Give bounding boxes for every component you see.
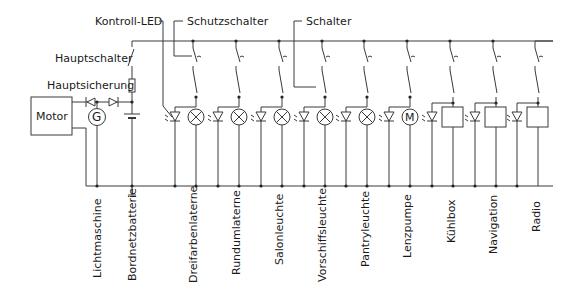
circuit-radio	[507, 41, 548, 188]
breaker-icon	[535, 48, 539, 62]
label-schalter: Schalter	[306, 15, 352, 28]
diode-right-icon	[109, 97, 118, 107]
leader-schalter	[294, 21, 316, 87]
breaker-icon	[322, 48, 326, 62]
circuit-vorschiffsleuchte	[294, 39, 333, 187]
switch-icon	[450, 70, 454, 93]
label-kontroll-led: Kontroll-LED	[95, 15, 162, 28]
circuit-dreifarbenlaterne	[165, 39, 204, 187]
kuehlbox-device-icon	[442, 107, 463, 127]
switch-icon	[279, 70, 283, 93]
control-led-icon	[422, 112, 437, 121]
breaker-icon	[450, 48, 454, 62]
circuit-lenzpumpe: M	[379, 39, 418, 187]
switch-icon	[364, 70, 368, 93]
label-salonleuchte: Salonleuchte	[273, 193, 286, 265]
battery-icon	[124, 114, 140, 118]
wiring-diagram: Motor G	[0, 0, 572, 300]
label-lenzpumpe: Lenzpumpe	[401, 194, 414, 258]
circuit-pantryleuchte	[336, 39, 375, 187]
breaker-icon	[279, 48, 283, 62]
label-bordnetzbatterie: Bordnetzbatterie	[126, 188, 139, 281]
breaker-icon	[407, 48, 411, 62]
control-led-icon	[336, 112, 351, 121]
label-hauptschalter: Hauptschalter	[55, 52, 133, 65]
navigation-device-icon	[485, 107, 506, 127]
circuit-rundumlaterne	[208, 39, 247, 187]
diode-left-icon	[86, 97, 95, 107]
label-schutzschalter: Schutzschalter	[187, 15, 269, 28]
label-dreifarbenlaterne: Dreifarbenlaterne	[187, 185, 200, 283]
circuit-navigation	[465, 39, 506, 187]
control-led-icon	[251, 112, 266, 121]
switch-icon	[407, 70, 411, 93]
radio-device-icon	[527, 107, 548, 127]
circuit-salonleuchte	[251, 39, 290, 187]
switch-icon	[493, 70, 497, 93]
control-led-icon	[208, 112, 223, 121]
breaker-icon	[493, 48, 497, 62]
breaker-icon	[236, 48, 240, 62]
switch-icon	[535, 70, 539, 93]
motor-label: Motor	[36, 110, 68, 123]
switch-icon	[193, 70, 197, 93]
label-vorschiffsleuchte: Vorschiffsleuchte	[316, 188, 329, 282]
control-led-icon	[294, 112, 309, 121]
leader-kontroll-led	[159, 21, 172, 117]
switch-icon	[236, 70, 240, 93]
switch-icon	[322, 70, 326, 93]
label-kuehlbox: Kühlbox	[445, 199, 458, 243]
pump-motor-label: M	[405, 111, 415, 124]
circuit-kuehlbox	[422, 39, 463, 187]
control-led-icon	[507, 112, 522, 121]
label-lichtmaschine: Lichtmaschine	[91, 198, 104, 278]
control-led-icon	[165, 112, 180, 121]
label-radio: Radio	[530, 201, 543, 232]
generator-label: G	[92, 110, 101, 124]
label-navigation: Navigation	[487, 195, 500, 254]
label-pantryleuchte: Pantryleuchte	[359, 191, 372, 267]
breaker-icon	[364, 48, 368, 62]
label-hauptsicherung: Hauptsicherung	[47, 79, 134, 92]
breaker-icon	[193, 48, 197, 62]
control-led-icon	[465, 112, 480, 121]
control-led-icon	[379, 112, 394, 121]
label-rundumlaterne: Rundumlaterne	[230, 190, 243, 275]
